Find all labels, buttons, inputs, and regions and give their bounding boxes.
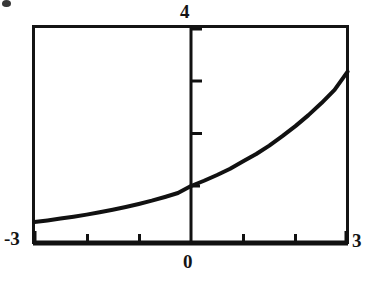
origin-label: 0 [183, 252, 193, 271]
x-axis-max-label: 3 [352, 231, 362, 250]
x-axis-min-label: -3 [4, 229, 20, 248]
graph-figure: 4 -3 3 0 [0, 0, 370, 285]
scan-artifact-speck [2, 0, 11, 7]
y-axis-max-label: 4 [180, 2, 190, 21]
exponential-graph-plot [0, 0, 370, 285]
